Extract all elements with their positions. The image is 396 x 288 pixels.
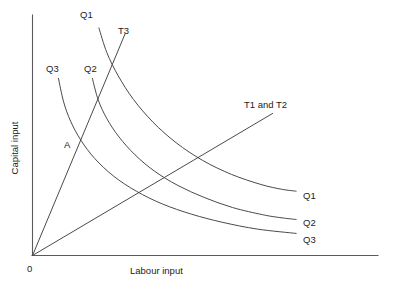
figure-container: Labour input Capital input 0 Q1 T3 Q3 Q2… — [0, 0, 396, 288]
x-axis-label: Labour input — [130, 265, 183, 276]
curve-label-q3-right: Q3 — [303, 234, 316, 245]
curve-label-q1-right: Q1 — [303, 190, 316, 201]
origin-label: 0 — [27, 263, 32, 274]
ray-label-t1-and-t2: T1 and T2 — [244, 99, 287, 110]
curve-label-q1-top: Q1 — [80, 9, 93, 20]
y-axis-label: Capital input — [9, 121, 20, 174]
curve-label-q2-right: Q2 — [303, 217, 316, 228]
curve-label-q3-top: Q3 — [46, 63, 59, 74]
curve-label-q2-top: Q2 — [84, 63, 97, 74]
isoquant-diagram: Labour input Capital input 0 Q1 T3 Q3 Q2… — [0, 0, 396, 288]
figure-background — [0, 0, 396, 288]
ray-label-t3-top: T3 — [118, 25, 129, 36]
point-label-a: A — [64, 139, 71, 150]
